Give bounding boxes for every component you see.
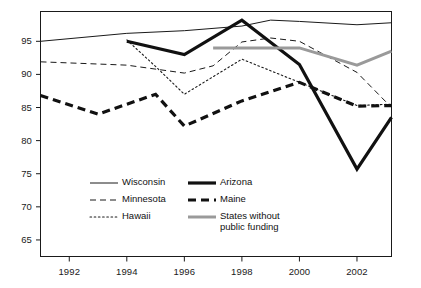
series-line-wisconsin [41, 20, 392, 41]
legend-label: Hawaii [122, 211, 151, 222]
y-tick-label: 75 [6, 168, 32, 179]
x-tick-label: 1994 [107, 266, 147, 277]
legend-label: Maine [220, 194, 246, 205]
x-tick-label: 1992 [49, 266, 89, 277]
x-tick-label: 1998 [222, 266, 262, 277]
legend-label: States without public funding [220, 211, 280, 232]
series-line-arizona [127, 20, 392, 169]
y-tick-label: 90 [6, 68, 32, 79]
y-tick-label: 65 [6, 234, 32, 245]
y-tick-label: 85 [6, 102, 32, 113]
line-chart: 65707580859095199219941996199820002002Wi… [0, 0, 421, 288]
x-tick-label: 2002 [337, 266, 377, 277]
y-tick-label: 95 [6, 35, 32, 46]
x-tick-label: 1996 [164, 266, 204, 277]
legend-label: Wisconsin [122, 177, 165, 188]
series-line-maine [41, 82, 392, 126]
x-tick-label: 2000 [279, 266, 319, 277]
series-line-states-without-public-funding [213, 48, 391, 65]
y-tick-label: 70 [6, 201, 32, 212]
y-tick-label: 80 [6, 135, 32, 146]
chart-canvas [0, 0, 421, 288]
legend-label: Arizona [220, 177, 252, 188]
legend-label: Minnesota [122, 194, 166, 205]
